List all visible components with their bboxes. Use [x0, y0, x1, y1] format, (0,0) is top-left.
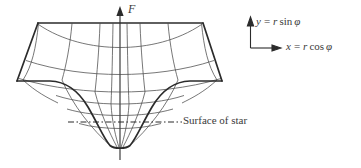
vertical-axis-label: F — [128, 2, 135, 17]
legend-x-arrowhead-icon — [272, 45, 281, 51]
legend-x-equals: = — [294, 40, 300, 52]
legend-y-equals: = — [264, 15, 270, 27]
surface-of-star-label: Surface of star — [183, 114, 247, 126]
legend-x-variable: x — [286, 40, 291, 52]
legend-y-angle: φ — [294, 15, 300, 27]
legend-x-equation: x=rcosφ — [286, 40, 332, 52]
figure-container: F Surface of star y=rsinφ x=rcosφ — [0, 0, 361, 168]
vertical-axis-F — [116, 6, 123, 160]
legend-y-function: sin — [279, 15, 292, 27]
legend-x-function: cos — [309, 40, 324, 52]
legend-x-radius: r — [303, 40, 307, 52]
legend-y-arrowhead-icon — [247, 17, 253, 26]
legend-y-radius: r — [273, 15, 277, 27]
axis-arrowhead-icon — [116, 6, 123, 16]
legend-y-variable: y — [256, 15, 261, 27]
embedding-diagram-svg — [0, 0, 361, 168]
legend-x-angle: φ — [326, 40, 332, 52]
legend-y-equation: y=rsinφ — [256, 15, 300, 27]
